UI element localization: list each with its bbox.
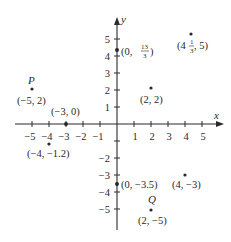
point-4-1-3-5 (189, 32, 192, 35)
svg-text:2: 2 (105, 85, 110, 96)
point-0-13-3-close: ) (150, 46, 154, 58)
point-m3-0 (64, 122, 68, 126)
coordinate-plane: x y −5 −4 −3 −2 −1 1 2 3 4 5 (0, 0, 231, 242)
point-0-m3.5-label: (0, −3.5) (121, 179, 158, 191)
svg-text:−2: −2 (75, 131, 86, 142)
point-4-m3 (183, 173, 186, 176)
svg-text:3: 3 (166, 131, 171, 142)
svg-text:−3: −3 (58, 131, 69, 142)
point-p-name: P (27, 74, 35, 86)
point-4-m3-label: (4, −3) (172, 179, 201, 191)
point-0-13-3-frac-den: 3 (143, 52, 147, 60)
point-m3-0-label: (−3, 0) (51, 106, 80, 118)
svg-text:4: 4 (183, 131, 189, 142)
point-4-1-3-5-prefix: (4 (177, 40, 186, 52)
svg-text:5: 5 (200, 131, 205, 142)
point-p-label: (−5, 2) (17, 95, 46, 107)
point-q-label: (2, −5) (138, 215, 167, 227)
point-q-name: Q (148, 193, 156, 205)
svg-text:−4: −4 (41, 131, 53, 142)
x-axis-arrow-icon (216, 121, 224, 127)
y-axis-arrow-icon (114, 17, 120, 25)
point-0-13-3-frac-num: 13 (141, 43, 149, 51)
point-2-2 (149, 86, 152, 89)
point-m4-m1.2-label: (−4, −1.2) (27, 148, 70, 160)
svg-text:3: 3 (105, 68, 110, 79)
point-m4-m1.2 (47, 142, 50, 145)
svg-text:−2: −2 (99, 153, 110, 164)
svg-text:−1: −1 (92, 131, 103, 142)
point-q (149, 208, 152, 211)
svg-text:5: 5 (105, 34, 110, 45)
x-axis-label: x (213, 109, 219, 121)
svg-text:−5: −5 (99, 204, 110, 215)
point-2-2-label: (2, 2) (140, 94, 163, 106)
point-0-13-3-label-prefix: (0, (121, 46, 132, 58)
svg-text:1: 1 (132, 131, 137, 142)
point-0-13-3 (115, 48, 119, 52)
y-axis-label: y (120, 13, 126, 25)
svg-text:1: 1 (105, 102, 110, 113)
svg-text:−5: −5 (24, 131, 35, 142)
point-4-1-3-5-suffix: , 5) (194, 40, 209, 52)
svg-text:2: 2 (149, 131, 154, 142)
svg-text:−3: −3 (99, 170, 110, 181)
point-p (30, 87, 33, 90)
x-tick-labels: −5 −4 −3 −2 −1 1 2 3 4 5 (24, 131, 205, 142)
svg-text:4: 4 (105, 51, 111, 62)
svg-text:−4: −4 (99, 187, 111, 198)
point-0-m3.5 (115, 182, 119, 186)
